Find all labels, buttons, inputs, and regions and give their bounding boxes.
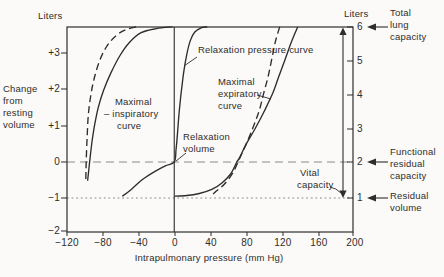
right-tick-3: 3 — [357, 123, 363, 135]
relaxation-pressure-figure: Liters Liters Change from resting volume… — [0, 0, 444, 277]
functional-residual-capacity-arrow — [367, 159, 388, 166]
left-axis-unit-label: Liters — [38, 10, 62, 21]
x-tick-120: 120 — [266, 237, 300, 249]
x-tick-n80: −80 — [86, 237, 120, 249]
left-tick-plus1: +1 — [38, 120, 60, 132]
left-tick-plus2: +2 — [38, 83, 60, 95]
right-tick-1: 1 — [357, 192, 363, 204]
total-lung-capacity-arrow — [367, 24, 388, 31]
right-axis-unit-label: Liters — [344, 8, 368, 19]
relaxation-volume-pointer-line — [176, 153, 186, 161]
relaxation-pressure-curve-label: Relaxation pressure curve — [198, 44, 313, 55]
vital-capacity-arrow — [339, 28, 346, 199]
right-tick-4: 4 — [357, 89, 363, 101]
residual-volume-arrow — [367, 195, 388, 202]
left-tick-plus3: +3 — [38, 47, 60, 59]
right-tick-5: 5 — [357, 55, 363, 67]
left-tick-zero: 0 — [38, 156, 60, 168]
left-tick-minus2: −2 — [38, 225, 60, 237]
x-tick-n120: −120 — [50, 237, 84, 249]
right-tick-2: 2 — [357, 156, 363, 168]
left-tick-minus1: −1 — [38, 192, 60, 204]
plot-frame — [67, 27, 353, 232]
x-tick-160: 160 — [302, 237, 336, 249]
x-tick-0: 0 — [158, 237, 192, 249]
right-tick-6: 6 — [357, 21, 363, 33]
x-tick-40: 40 — [194, 237, 228, 249]
x-tick-200: 200 — [338, 237, 372, 249]
x-tick-80: 80 — [230, 237, 264, 249]
x-axis-title: Intrapulmonary pressure (mm Hg) — [109, 252, 309, 263]
x-tick-n40: −40 — [122, 237, 156, 249]
